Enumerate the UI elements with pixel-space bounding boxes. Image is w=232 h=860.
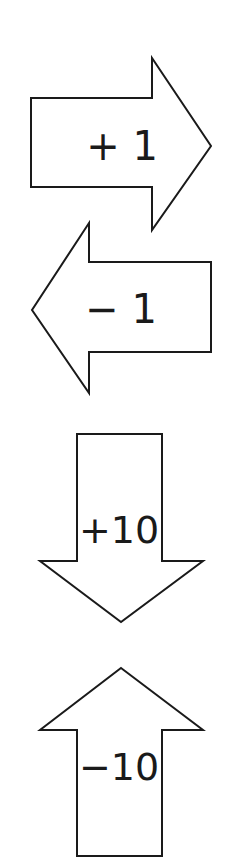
minus-ten-arrow-button[interactable]: −10 [40, 668, 203, 856]
minus-ten-label: −10 [79, 745, 159, 789]
plus-ten-arrow-button[interactable]: +10 [40, 434, 203, 622]
plus-ten-label: +10 [79, 508, 159, 552]
plus-one-label: + 1 [86, 123, 158, 169]
plus-one-arrow-button[interactable]: + 1 [31, 58, 211, 230]
minus-one-label: − 1 [85, 286, 157, 332]
minus-one-arrow-button[interactable]: − 1 [32, 223, 211, 393]
arrow-controls: + 1 − 1 +10 −10 [0, 0, 232, 860]
